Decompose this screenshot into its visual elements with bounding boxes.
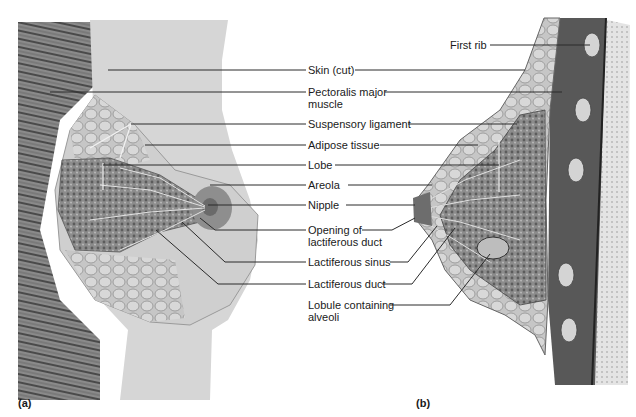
label-lactiferous-duct: Lactiferous duct bbox=[308, 278, 386, 290]
label-lobule-line2: alveoli bbox=[308, 311, 339, 323]
label-opening-line1: Opening of bbox=[308, 224, 362, 236]
label-areola: Areola bbox=[308, 179, 340, 191]
label-skin-cut: Skin (cut) bbox=[308, 64, 354, 76]
label-pectoralis-line1: Pectoralis major bbox=[308, 86, 387, 98]
label-suspensory-ligament: Suspensory ligament bbox=[308, 118, 411, 130]
label-adipose-tissue: Adipose tissue bbox=[308, 139, 380, 151]
label-lobe: Lobe bbox=[308, 159, 332, 171]
label-opening-line2: lactiferous duct bbox=[308, 236, 382, 248]
label-lobule-line1: Lobule containing bbox=[308, 299, 394, 311]
label-lactiferous-sinus: Lactiferous sinus bbox=[308, 256, 391, 268]
label-pectoralis-line2: muscle bbox=[308, 98, 343, 110]
panel-label-b: (b) bbox=[416, 397, 430, 409]
panel-label-a: (a) bbox=[18, 397, 31, 409]
panel-b-drawing bbox=[413, 18, 630, 385]
panel-a-drawing bbox=[18, 20, 258, 400]
label-nipple: Nipple bbox=[308, 199, 339, 211]
label-first-rib: First rib bbox=[450, 39, 487, 51]
